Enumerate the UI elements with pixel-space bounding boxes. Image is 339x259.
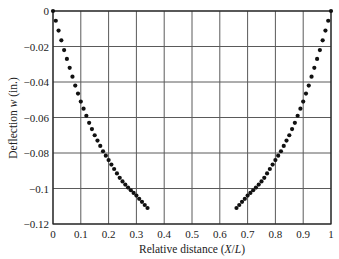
data-point xyxy=(134,194,138,198)
data-point xyxy=(98,144,102,148)
data-point xyxy=(309,75,313,79)
data-point xyxy=(298,107,302,111)
data-point xyxy=(112,167,116,171)
data-point xyxy=(318,48,322,52)
x-tick-label: 0.8 xyxy=(269,228,283,240)
data-point xyxy=(329,9,333,13)
x-tick-label: 0.5 xyxy=(185,228,199,240)
y-tick-label: −0.08 xyxy=(24,147,50,159)
y-tick-label: 0 xyxy=(44,5,50,17)
data-point xyxy=(145,206,149,210)
data-point xyxy=(243,197,247,201)
y-axis-ticks: 0−0.02−0.04−0.06−0.08−0.1−0.12 xyxy=(24,5,50,230)
x-tick-label: 0.4 xyxy=(157,228,171,240)
data-point xyxy=(276,154,280,158)
x-axis-label: Relative distance (X/L) xyxy=(139,243,245,256)
y-axis-label: Deflection w (in.) xyxy=(7,77,20,159)
y-tick-label: −0.06 xyxy=(24,112,50,124)
x-tick-label: 0.6 xyxy=(213,228,227,240)
data-point xyxy=(323,28,327,32)
data-point xyxy=(315,57,319,61)
data-point xyxy=(51,9,55,13)
data-point xyxy=(115,171,119,175)
data-point xyxy=(307,83,311,87)
data-point xyxy=(237,203,241,207)
data-point xyxy=(109,162,113,166)
data-point xyxy=(140,200,144,204)
x-tick-label: 0.2 xyxy=(102,228,116,240)
data-point xyxy=(107,158,111,162)
deflection-chart: 00.10.20.30.40.50.60.70.80.91 0−0.02−0.0… xyxy=(0,0,339,259)
data-point xyxy=(118,176,122,180)
y-tick-label: −0.12 xyxy=(24,218,49,230)
x-tick-label: 0.3 xyxy=(130,228,144,240)
data-point xyxy=(59,38,63,42)
data-point xyxy=(79,99,83,103)
grid-lines xyxy=(53,11,331,224)
data-point xyxy=(54,19,58,23)
data-point xyxy=(326,19,330,23)
x-tick-label: 1 xyxy=(328,228,334,240)
data-point xyxy=(68,66,72,70)
data-point xyxy=(304,91,308,95)
y-tick-label: −0.1 xyxy=(29,183,49,195)
data-point xyxy=(287,133,291,137)
data-point xyxy=(262,176,266,180)
data-point xyxy=(284,138,288,142)
data-point xyxy=(296,114,300,118)
data-point xyxy=(282,144,286,148)
data-point xyxy=(90,127,94,131)
data-point xyxy=(93,133,97,137)
data-point xyxy=(293,121,297,125)
data-point xyxy=(104,154,108,158)
data-point xyxy=(56,28,60,32)
data-point xyxy=(290,127,294,131)
data-point xyxy=(268,167,272,171)
y-tick-label: −0.02 xyxy=(24,41,49,53)
data-point xyxy=(120,179,124,183)
data-point xyxy=(271,162,275,166)
data-point xyxy=(273,158,277,162)
data-point xyxy=(321,38,325,42)
x-tick-label: 0.9 xyxy=(296,228,310,240)
data-point xyxy=(62,48,66,52)
y-tick-label: −0.04 xyxy=(24,76,50,88)
data-point xyxy=(76,91,80,95)
data-point xyxy=(279,149,283,153)
x-tick-label: 0 xyxy=(50,228,56,240)
x-tick-label: 0.1 xyxy=(74,228,88,240)
data-point xyxy=(70,75,74,79)
data-point xyxy=(301,99,305,103)
x-axis-ticks: 00.10.20.30.40.50.60.70.80.91 xyxy=(50,228,334,240)
data-point xyxy=(259,179,263,183)
data-point xyxy=(95,138,99,142)
data-point xyxy=(257,182,261,186)
x-tick-label: 0.7 xyxy=(241,228,255,240)
data-point xyxy=(265,171,269,175)
data-point xyxy=(84,114,88,118)
data-point xyxy=(312,66,316,70)
data-point xyxy=(101,149,105,153)
data-point xyxy=(65,57,69,61)
data-point xyxy=(87,121,91,125)
data-point xyxy=(73,83,77,87)
data-point xyxy=(81,107,85,111)
